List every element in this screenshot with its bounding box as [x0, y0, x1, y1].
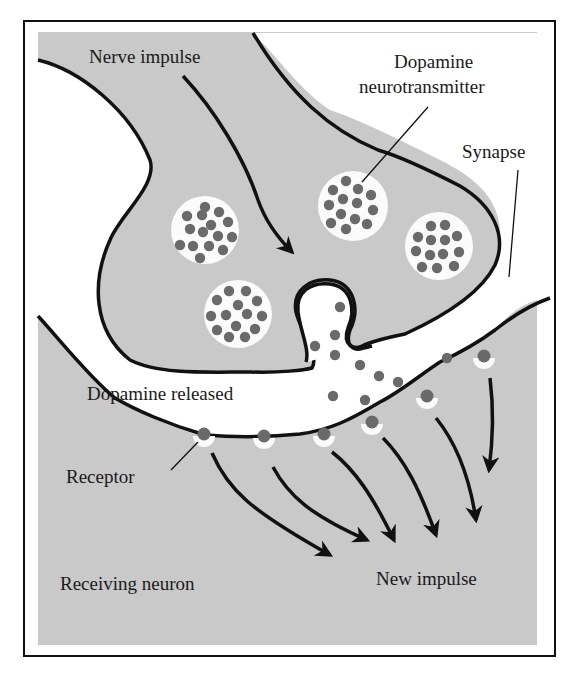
label-dopamine-released: Dopamine released: [87, 383, 234, 404]
label-receptor: Receptor: [66, 466, 135, 487]
label-nerve-impulse: Nerve impulse: [89, 46, 200, 67]
synapse-figure: Nerve impulse Dopamine neurotransmitter …: [0, 0, 577, 679]
vesicle-left-lower: [204, 280, 272, 348]
label-receiving-neuron: Receiving neuron: [60, 573, 195, 594]
label-dopamine-line2: neurotransmitter: [359, 76, 485, 97]
vesicle-center: [318, 171, 388, 241]
label-dopamine-line1: Dopamine: [394, 51, 473, 72]
synapse-diagram: Nerve impulse Dopamine neurotransmitter …: [0, 0, 577, 679]
label-new-impulse: New impulse: [376, 568, 477, 589]
vesicle-right: [405, 212, 473, 280]
label-synapse: Synapse: [462, 141, 525, 162]
vesicle-left-upper: [171, 196, 239, 264]
